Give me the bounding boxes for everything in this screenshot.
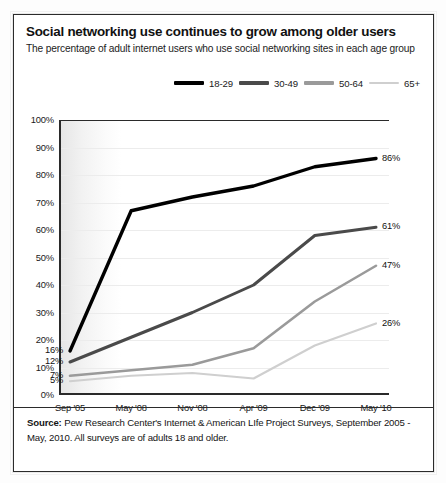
y-axis-tick-20%: 20% — [20, 334, 54, 345]
y-axis-tick-70%: 70% — [20, 197, 54, 208]
start-value-30-49: 12% — [37, 356, 63, 366]
legend-item-18-29: 18-29 — [174, 78, 233, 89]
legend-item-50-64: 50-64 — [304, 78, 363, 89]
page-subtitle: The percentage of adult internet users w… — [26, 42, 424, 55]
y-axis-tick-90%: 90% — [20, 142, 54, 153]
legend-label-65+: 65+ — [404, 78, 420, 89]
end-value-50-64: 47% — [382, 260, 400, 270]
end-value-65+: 26% — [382, 318, 400, 328]
series-line-18-29 — [70, 159, 376, 352]
plot-box: 0%10%20%30%40%50%60%70%80%90%100% Sep '0… — [59, 106, 389, 396]
source-text: Pew Research Center's Internet & America… — [27, 417, 410, 443]
chart-legend: 18-2930-4950-6465+ — [174, 75, 420, 91]
end-value-30-49: 61% — [382, 221, 400, 231]
series-line-50-64 — [70, 266, 376, 376]
y-axis-tick-60%: 60% — [20, 224, 54, 235]
y-axis-tick-50%: 50% — [20, 252, 54, 263]
legend-label-30-49: 30-49 — [274, 78, 298, 89]
footer-divider — [14, 407, 433, 408]
chart-page: Social networking use continues to grow … — [0, 0, 446, 483]
legend-swatch-65+ — [369, 82, 399, 85]
series-lines — [59, 106, 389, 396]
legend-label-50-64: 50-64 — [339, 78, 363, 89]
chart-frame: Social networking use continues to grow … — [13, 14, 434, 472]
legend-item-65+: 65+ — [369, 78, 420, 89]
y-axis-tick-30%: 30% — [20, 307, 54, 318]
start-value-18-29: 16% — [37, 345, 63, 355]
legend-label-18-29: 18-29 — [209, 78, 233, 89]
y-axis-tick-0%: 0% — [20, 389, 54, 400]
source-note: Source: Pew Research Center's Internet &… — [27, 416, 419, 445]
end-value-18-29: 86% — [382, 153, 400, 163]
page-title: Social networking use continues to grow … — [26, 24, 420, 39]
legend-swatch-50-64 — [304, 81, 334, 84]
y-axis-tick-100%: 100% — [20, 114, 54, 125]
source-label: Source: — [27, 417, 62, 428]
plot-area: 0%10%20%30%40%50%60%70%80%90%100% Sep '0… — [59, 106, 389, 396]
legend-swatch-30-49 — [239, 81, 269, 85]
y-axis-tick-40%: 40% — [20, 279, 54, 290]
start-value-65+: 5% — [37, 375, 63, 385]
legend-item-30-49: 30-49 — [239, 78, 298, 89]
legend-swatch-18-29 — [174, 81, 204, 86]
y-axis-tick-80%: 80% — [20, 169, 54, 180]
